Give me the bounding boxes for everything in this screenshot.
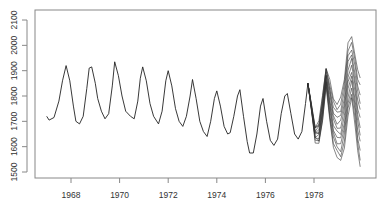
y-tick-label: 1600 — [9, 137, 19, 156]
y-tick-label: 2100 — [9, 10, 19, 29]
y-tick-label: 1700 — [9, 112, 19, 131]
x-tick-label: 1978 — [305, 190, 324, 200]
forecast-path — [308, 83, 360, 167]
y-tick-label: 2000 — [9, 36, 19, 55]
y-tick-label: 1800 — [9, 86, 19, 105]
observed-series-line — [47, 62, 308, 153]
y-axis: 1500160017001800190020002100 — [9, 10, 27, 181]
x-tick-label: 1968 — [62, 190, 81, 200]
forecast-fan-paths — [308, 37, 360, 167]
x-tick-label: 1972 — [159, 190, 178, 200]
y-tick-label: 1500 — [9, 162, 19, 181]
x-tick-label: 1970 — [110, 190, 129, 200]
x-tick-label: 1976 — [256, 190, 275, 200]
y-tick-label: 1900 — [9, 61, 19, 80]
forecast-path — [308, 81, 360, 144]
time-series-chart: 1500160017001800190020002100 19681970197… — [0, 0, 389, 213]
x-axis: 196819701972197419761978 — [62, 178, 324, 200]
x-tick-label: 1974 — [207, 190, 226, 200]
